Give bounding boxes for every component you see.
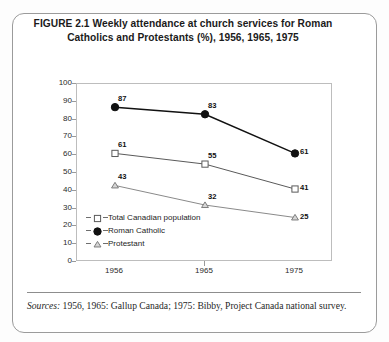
y-tick-mark [72,83,76,84]
data-point-label: 83 [208,102,216,110]
marker-filled-circle [94,228,101,235]
y-tick-label: 30 [50,204,72,212]
y-tick-mark [72,119,76,120]
marker-open-triangle [94,241,101,247]
y-tick-mark [72,225,76,226]
legend-marker-glyph [92,213,103,224]
legend-dash-right [103,230,108,231]
y-tick-label: 90 [50,97,72,105]
x-tick-label: 1965 [174,266,234,276]
legend-marker-glyph [92,239,103,250]
legend-dash-left [86,217,91,218]
y-tick-mark [72,190,76,191]
y-tick-label: 40 [50,186,72,194]
legend-item[interactable]: Roman Catholic [86,224,236,237]
legend-marker [86,224,108,237]
legend-marker [86,237,108,250]
y-tick-label: 100 [50,79,72,87]
y-tick-label: 70 [50,132,72,140]
marker-open-square [202,161,208,167]
legend-label: Total Canadian population [108,213,201,222]
y-tick-mark [72,208,76,209]
x-tick-mark [204,261,205,266]
figure-title: FIGURE 2.1 Weekly attendance at church s… [26,17,340,45]
legend-label: Protestant [108,239,144,248]
data-point-label: 43 [118,173,126,181]
x-tick-label: 1975 [264,266,324,276]
legend-label: Roman Catholic [108,226,165,235]
y-tick-mark [72,136,76,137]
marker-filled-circle [291,150,298,157]
y-axis: 0102030405060708090100 [48,0,72,342]
marker-open-square [112,150,118,156]
marker-open-square [94,215,100,221]
marker-open-triangle [112,182,119,188]
figure-title-line-1: FIGURE 2.1 Weekly attendance at church s… [26,17,340,31]
legend-dash-right [103,243,108,244]
figure-title-line-2: Catholics and Protestants (%), 1956, 196… [26,31,340,45]
legend-item[interactable]: Protestant [86,237,236,250]
data-point-label: 87 [118,95,126,103]
x-tick-label: 1956 [84,266,144,276]
marker-open-square [292,186,298,192]
x-axis: 195619651975 [76,266,332,280]
y-tick-label: 80 [50,115,72,123]
y-tick-mark [72,243,76,244]
chart-legend: Total Canadian populationRoman CatholicP… [86,211,236,250]
source-divider [27,292,361,293]
y-tick-mark [72,154,76,155]
data-point-label: 61 [118,141,126,149]
figure-container: FIGURE 2.1 Weekly attendance at church s… [0,0,389,342]
y-tick-label: 60 [50,150,72,158]
y-tick-label: 20 [50,221,72,229]
data-point-label: 32 [208,193,216,201]
y-tick-label: 0 [50,257,72,265]
legend-item[interactable]: Total Canadian population [86,211,236,224]
legend-dash-left [86,243,91,244]
y-tick-mark [72,172,76,173]
source-text: 1956, 1965: Gallup Canada; 1975: Bibby, … [60,300,346,311]
legend-dash-right [103,217,108,218]
y-tick-label: 10 [50,239,72,247]
source-note: Sources: 1956, 1965: Gallup Canada; 1975… [27,300,363,313]
data-point-label: 25 [300,213,308,221]
legend-dash-left [86,230,91,231]
y-tick-mark [72,261,76,262]
legend-marker-glyph [92,226,103,237]
marker-filled-circle [111,103,118,110]
y-tick-mark [72,101,76,102]
data-point-label: 41 [300,184,308,192]
marker-filled-circle [201,111,208,118]
source-label: Sources: [27,300,60,311]
legend-marker [86,211,108,224]
y-tick-label: 50 [50,168,72,176]
series-line [115,153,295,189]
data-point-label: 61 [300,148,308,156]
data-point-label: 55 [208,152,216,160]
